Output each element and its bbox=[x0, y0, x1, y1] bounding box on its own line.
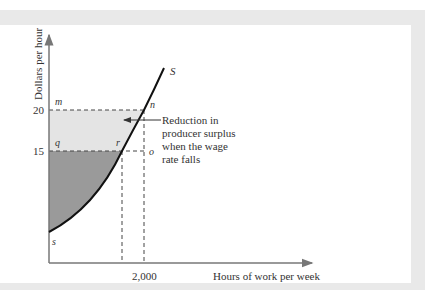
producer-surplus-chart: Dollars per hour Hours of work per week … bbox=[0, 0, 441, 306]
svg-text:producer surplus: producer surplus bbox=[162, 127, 236, 139]
point-o: o bbox=[149, 146, 154, 157]
svg-text:rate falls: rate falls bbox=[162, 153, 200, 165]
y-axis-label: Dollars per hour bbox=[32, 28, 44, 100]
annotation-text: Reduction in producer surplus when the w… bbox=[162, 114, 236, 165]
svg-text:when the wage: when the wage bbox=[162, 140, 228, 152]
point-q: q bbox=[55, 137, 60, 148]
remaining-surplus-region bbox=[49, 151, 122, 232]
point-m: m bbox=[55, 96, 62, 107]
surplus-reduction-region bbox=[49, 110, 144, 151]
y-tick-15: 15 bbox=[33, 145, 45, 157]
curve-label-s: S bbox=[170, 65, 176, 77]
x-axis-label: Hours of work per week bbox=[213, 270, 320, 282]
x-tick-2000: 2,000 bbox=[132, 270, 157, 282]
svg-text:Reduction in: Reduction in bbox=[162, 114, 219, 126]
y-tick-20: 20 bbox=[33, 104, 45, 116]
point-s: s bbox=[52, 236, 56, 247]
point-r: r bbox=[116, 137, 120, 148]
point-n: n bbox=[150, 99, 155, 110]
